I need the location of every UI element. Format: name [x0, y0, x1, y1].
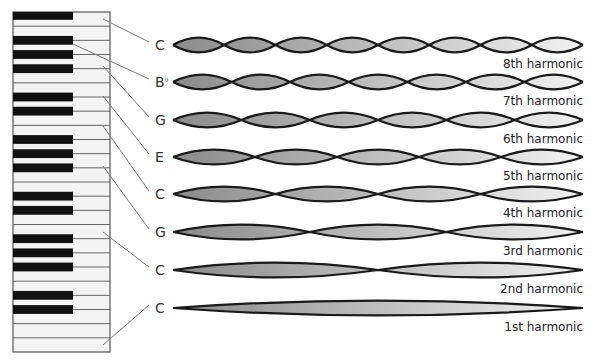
wave-harmonic-1: [173, 301, 583, 316]
black-key: [13, 291, 73, 300]
note-labels: CB♭GECGCC: [155, 37, 169, 316]
note-label: C: [155, 186, 165, 202]
note-label: E: [155, 149, 164, 165]
harmonic-label: 2nd harmonic: [500, 282, 583, 296]
black-key: [13, 234, 73, 243]
black-key: [13, 12, 73, 20]
black-key: [13, 50, 73, 59]
black-key: [13, 149, 73, 158]
black-key: [13, 135, 73, 144]
note-label: G: [155, 112, 166, 128]
harmonic-label: 8th harmonic: [503, 57, 583, 71]
black-key: [13, 192, 73, 201]
wave-harmonic-4: [173, 187, 583, 202]
wave-harmonic-8: [173, 38, 583, 53]
black-key: [13, 36, 73, 45]
note-label: C: [155, 37, 165, 53]
black-key: [13, 163, 73, 172]
harmonic-label: 1st harmonic: [504, 320, 583, 334]
harmonic-label: 5th harmonic: [503, 169, 583, 183]
black-key: [13, 107, 73, 116]
harmonic-label: 6th harmonic: [503, 132, 583, 146]
note-label: B♭: [155, 74, 169, 90]
black-key: [13, 263, 73, 272]
piano-keyboard: [13, 12, 110, 352]
note-label: G: [155, 224, 166, 240]
note-label: C: [155, 300, 165, 316]
wave-harmonic-6: [173, 113, 583, 128]
black-key: [13, 248, 73, 257]
black-key: [13, 206, 73, 215]
black-key: [13, 64, 73, 73]
note-label: C: [155, 262, 165, 278]
harmonic-label: 4th harmonic: [503, 206, 583, 220]
harmonic-label: 3rd harmonic: [503, 244, 583, 258]
wave-harmonic-7: [173, 75, 583, 90]
harmonics-diagram: CB♭GECGCC 8th harmonic7th harmonic6th ha…: [0, 0, 598, 360]
black-key: [13, 93, 73, 102]
harmonic-label: 7th harmonic: [503, 94, 583, 108]
black-key: [13, 305, 73, 314]
wave-harmonic-5: [173, 150, 583, 165]
wave-harmonic-3: [173, 225, 583, 240]
wave-harmonic-2: [173, 263, 583, 278]
